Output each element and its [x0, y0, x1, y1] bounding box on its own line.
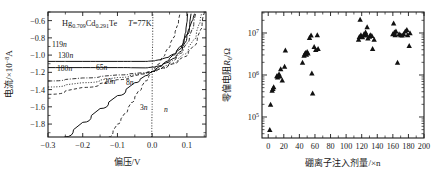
- scatter-point: [364, 24, 369, 29]
- scatter-point: [283, 47, 288, 52]
- right-xaxis-title: 硼离子注入剂量/×n: [305, 157, 381, 168]
- right-plot-frame: [262, 12, 424, 138]
- x-tick-label: −0.3: [41, 141, 56, 150]
- scatter-point: [309, 71, 314, 76]
- x-tick-label: 100: [340, 142, 352, 151]
- scatter-point: [267, 127, 272, 132]
- scatter-point: [308, 33, 313, 38]
- scatter-point: [391, 21, 396, 26]
- curves-clip-group: [48, 14, 204, 137]
- scatter-point: [282, 64, 287, 69]
- temperature-annotation: T=77K: [128, 19, 152, 28]
- left-plot-svg: −0.3−0.2−0.10.00.1−0.6−0.8−1.0−1.2−1.4−1…: [0, 0, 219, 171]
- curve-label-20n: 20n: [104, 77, 116, 86]
- left-yaxis-title: 电流/×10−8A: [3, 50, 14, 98]
- left-xaxis-title: 偏压/V: [114, 156, 142, 167]
- x-tick-label: 20: [280, 142, 288, 151]
- y-tick-label: 107: [248, 28, 259, 38]
- scatter-point: [370, 46, 375, 51]
- scatter-point: [407, 43, 412, 48]
- y-tick-label: −1.4: [30, 86, 45, 95]
- curve-3n: [109, 14, 180, 137]
- curve-label-180n: 180n: [57, 64, 72, 73]
- curve-label-130n: 130n: [58, 51, 73, 60]
- right-axis-ticks: [262, 12, 424, 138]
- y-tick-label: 106: [248, 70, 259, 80]
- left-curve-labels: 119n130n180n65n20n8n3nn: [52, 40, 168, 114]
- x-tick-label: 40: [295, 142, 303, 151]
- right-plot-svg: 020406080100120140160180200105106107 硼离子…: [219, 0, 437, 171]
- scatter-point: [395, 60, 400, 65]
- x-tick-label: 0.0: [147, 141, 157, 150]
- right-yaxis-title: 零偏电阻R0/Ω: [221, 48, 233, 102]
- left-curves-group: [48, 14, 204, 137]
- curve-n: [151, 14, 152, 137]
- y-tick-label: −0.6: [30, 17, 45, 26]
- x-tick-label: 160: [387, 142, 399, 151]
- y-tick-label: −1.6: [30, 103, 45, 112]
- y-tick-label: 105: [248, 112, 259, 122]
- scatter-point: [300, 60, 305, 65]
- curve-label-65n: 65n: [96, 63, 108, 72]
- x-tick-label: 120: [356, 142, 368, 151]
- curve-label-3n: 3n: [140, 103, 148, 112]
- right-scatter-markers: [267, 17, 413, 132]
- y-tick-label: −1.2: [30, 68, 45, 77]
- right-plot-panel: 020406080100120140160180200105106107 硼离子…: [219, 0, 437, 171]
- curve-label-119n: 119n: [52, 40, 67, 49]
- x-tick-label: 0.1: [182, 141, 192, 150]
- scatter-point: [310, 90, 315, 95]
- curve-label-n: n: [164, 105, 168, 114]
- markers-clip-group: [267, 17, 413, 132]
- x-tick-label: −0.1: [110, 141, 125, 150]
- x-tick-label: 0: [266, 142, 270, 151]
- scatter-point: [271, 84, 276, 89]
- scatter-point: [268, 102, 273, 107]
- material-annotation: Hg0.709Cd0.291Te: [62, 19, 118, 29]
- x-tick-label: 200: [418, 142, 430, 151]
- x-tick-label: 60: [311, 142, 319, 151]
- left-plot-panel: −0.3−0.2−0.10.00.1−0.6−0.8−1.0−1.2−1.4−1…: [0, 0, 219, 171]
- y-tick-label: −1.0: [30, 51, 45, 60]
- figure-container: −0.3−0.2−0.10.00.1−0.6−0.8−1.0−1.2−1.4−1…: [0, 0, 437, 171]
- x-tick-label: 180: [402, 142, 414, 151]
- y-tick-label: −1.8: [30, 120, 45, 129]
- x-tick-label: 140: [371, 142, 383, 151]
- right-tick-labels: 020406080100120140160180200105106107: [248, 28, 430, 151]
- x-tick-label: −0.2: [75, 141, 90, 150]
- scatter-point: [315, 32, 320, 37]
- scatter-point: [357, 17, 362, 22]
- curve-label-8n: 8n: [126, 78, 134, 87]
- x-tick-label: 80: [326, 142, 334, 151]
- y-tick-label: −0.8: [30, 34, 45, 43]
